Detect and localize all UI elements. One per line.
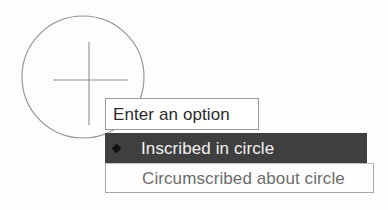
enter-option-label: Enter an option [106, 106, 230, 123]
cad-canvas: Enter an option Inscribed in circle Circ… [0, 0, 388, 210]
option-item-label: Circumscribed about circle [106, 170, 345, 187]
option-dropdown-list[interactable]: Inscribed in circle Circumscribed about … [105, 133, 374, 193]
option-item-label: Inscribed in circle [127, 140, 274, 157]
diamond-bullet-icon [105, 145, 127, 152]
enter-option-input[interactable]: Enter an option [105, 98, 259, 130]
option-item-circumscribed-about-circle[interactable]: Circumscribed about circle [105, 163, 374, 193]
option-item-inscribed-in-circle[interactable]: Inscribed in circle [105, 133, 367, 163]
